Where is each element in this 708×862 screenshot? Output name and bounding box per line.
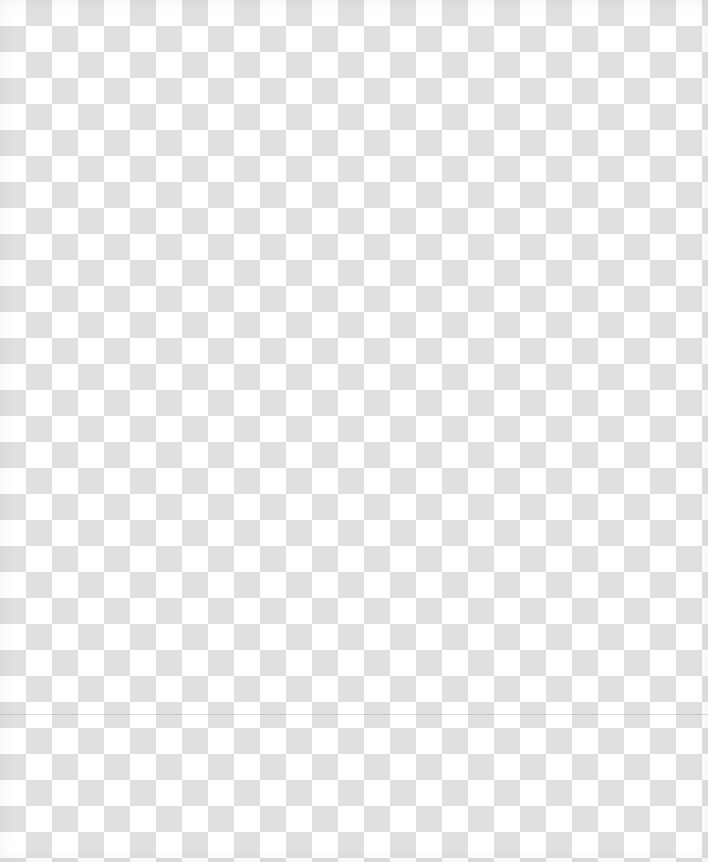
- transparent-canvas-checkerboard: [0, 0, 708, 862]
- faint-horizontal-seam: [0, 714, 708, 715]
